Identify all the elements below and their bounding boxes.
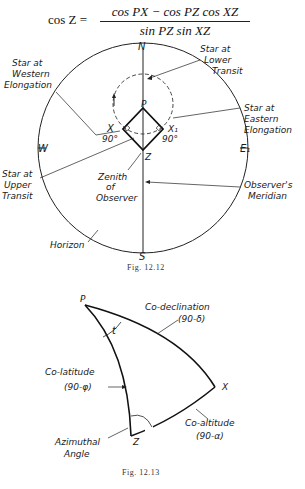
western-elongation-label: Star at Western Elongation xyxy=(4,58,52,90)
zenith-observer-label: Zenith of Observer xyxy=(96,172,139,203)
fig2-zenith-label: Z xyxy=(132,437,140,447)
angle-t-label: t xyxy=(112,325,117,336)
west-label: W xyxy=(38,143,49,154)
star-east-label: X₁ xyxy=(167,124,178,134)
angle-right: 90° xyxy=(162,134,178,144)
figure-12-13: P X Z t Co-declination (90-δ) Co-latitud… xyxy=(45,294,237,477)
lower-transit-label: Star at Lower Transit xyxy=(200,44,243,76)
co-altitude-arc xyxy=(131,387,215,436)
fig-12-12-caption: Fig. 12.12 xyxy=(127,263,165,272)
co-declination-label: Co-declination (90-δ) xyxy=(145,302,213,324)
co-latitude-label: Co-latitude (90-φ) xyxy=(45,367,97,392)
north-label: N xyxy=(138,41,146,52)
upper-transit-label: Star at Upper Transit xyxy=(2,169,35,201)
fig-12-13-caption: Fig. 12.13 xyxy=(122,468,160,477)
co-altitude-label: Co-altitude (90-α) xyxy=(185,418,237,441)
meridian-label: Observer's Meridian xyxy=(244,180,295,201)
fig2-pole-label: P xyxy=(80,294,86,304)
fig2-star-label: X xyxy=(221,382,229,392)
figure-12-12: N S W E₁ P Z X X₁ 90° 90° Star at Lower … xyxy=(2,41,295,272)
eastern-elongation-label: Star at Eastern Elongation xyxy=(244,103,292,135)
horizon-label: Horizon xyxy=(50,240,85,250)
figures-canvas: N S W E₁ P Z X X₁ 90° 90° Star at Lower … xyxy=(0,0,305,489)
pole-label: P xyxy=(141,99,147,109)
east-label: E₁ xyxy=(240,143,250,154)
zenith-point-label: Z xyxy=(144,152,152,162)
azimuthal-angle-label: Azimuthal Angle xyxy=(54,437,103,459)
south-label: S xyxy=(139,251,146,262)
angle-left: 90° xyxy=(102,134,118,144)
